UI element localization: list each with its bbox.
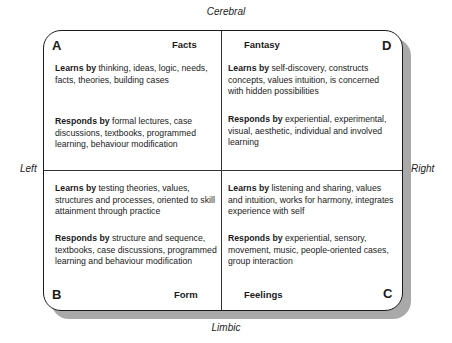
axis-label-limbic: Limbic [0, 322, 452, 333]
quadrant-letter: D [382, 38, 391, 53]
quadrant-b: Learns by testing theories, values, stru… [44, 171, 222, 310]
learns-by-text: Learns by listening and sharing, values … [228, 183, 394, 218]
axis-label-left: Left [20, 163, 37, 174]
quadrant-letter: A [52, 38, 61, 53]
responds-by-text: Responds by formal lectures, case discus… [55, 116, 217, 151]
responds-by-text: Responds by experiential, experimental, … [228, 114, 394, 149]
responds-by-text: Responds by structure and sequence, text… [55, 233, 220, 268]
quadrant-diagram: A Facts Learns by thinking, ideas, logic… [43, 30, 403, 311]
quadrant-title: Fantasy [244, 39, 280, 50]
quadrant-title: Feelings [244, 289, 283, 300]
responds-by-text: Responds by experiential, sensory, movem… [228, 233, 396, 268]
quadrant-a: A Facts Learns by thinking, ideas, logic… [44, 31, 222, 170]
learns-by-text: Learns by testing theories, values, stru… [55, 183, 217, 218]
quadrant-title: Facts [172, 39, 197, 50]
quadrant-d: Fantasy D Learns by self-discovery, cons… [222, 31, 400, 170]
axis-label-cerebral: Cerebral [0, 6, 452, 17]
quadrant-letter: B [52, 287, 61, 302]
quadrant-c: Learns by listening and sharing, values … [222, 171, 400, 310]
learns-by-text: Learns by thinking, ideas, logic, needs,… [55, 63, 217, 86]
quadrant-title: Form [174, 289, 198, 300]
axis-label-right: Right [411, 163, 434, 174]
learns-by-text: Learns by self-discovery, constructs con… [228, 63, 394, 98]
quadrant-letter: C [383, 286, 392, 301]
